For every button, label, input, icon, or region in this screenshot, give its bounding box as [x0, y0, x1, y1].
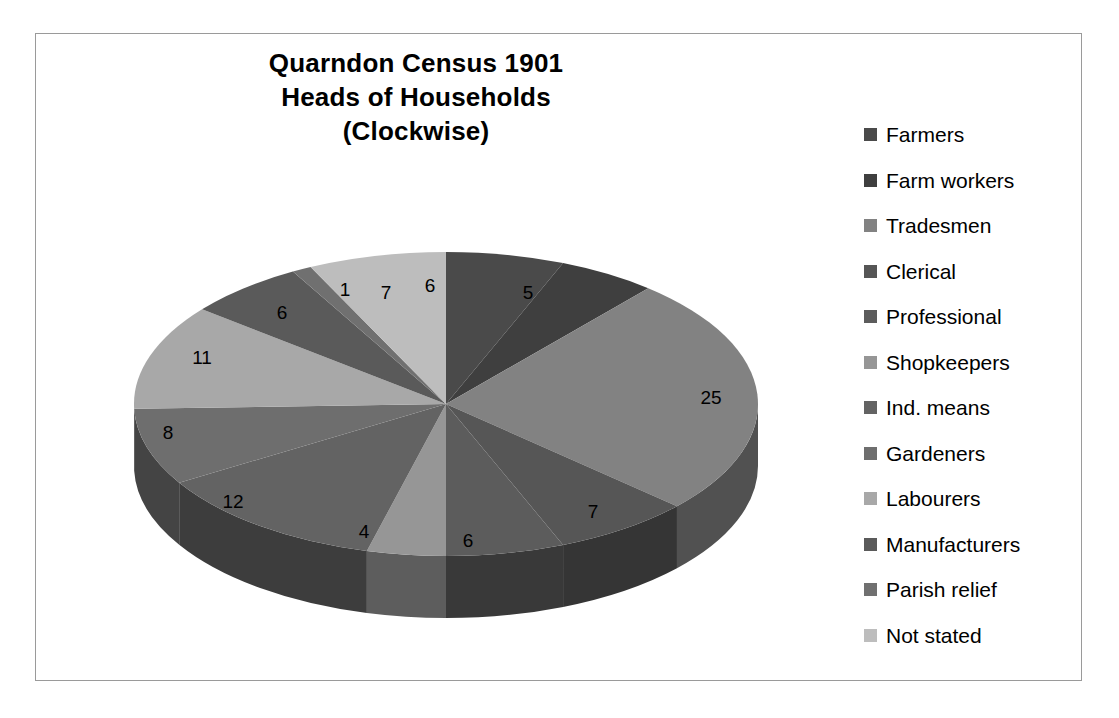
legend-item-manufacturers[interactable]: Manufacturers: [864, 522, 1079, 568]
pie-slice-side-shopkeepers: [367, 551, 446, 618]
legend-swatch-icon: [864, 629, 877, 642]
legend-item-label: Professional: [886, 306, 1002, 327]
legend-item-label: Not stated: [886, 625, 982, 646]
legend-item-label: Manufacturers: [886, 534, 1020, 555]
legend-swatch-icon: [864, 492, 877, 505]
legend-swatch-icon: [864, 310, 877, 323]
pie-svg: [96, 219, 796, 619]
legend-item-label: Shopkeepers: [886, 352, 1010, 373]
legend-item-farm-workers[interactable]: Farm workers: [864, 158, 1079, 204]
legend-item-clerical[interactable]: Clerical: [864, 249, 1079, 295]
pie-top-faces: [134, 252, 758, 556]
legend-item-parish-relief[interactable]: Parish relief: [864, 567, 1079, 613]
legend-item-label: Tradesmen: [886, 215, 991, 236]
legend-swatch-icon: [864, 128, 877, 141]
legend-item-label: Clerical: [886, 261, 956, 282]
legend-swatch-icon: [864, 174, 877, 187]
legend-item-label: Ind. means: [886, 397, 990, 418]
legend-swatch-icon: [864, 265, 877, 278]
chart-title-line-2: Heads of Households: [36, 81, 796, 115]
legend-swatch-icon: [864, 583, 877, 596]
pie-chart: 652576412811617: [96, 219, 796, 619]
legend-swatch-icon: [864, 219, 877, 232]
chart-title-line-3: (Clockwise): [36, 115, 796, 149]
legend-item-farmers[interactable]: Farmers: [864, 112, 1079, 158]
legend-item-professional[interactable]: Professional: [864, 294, 1079, 340]
legend-item-tradesmen[interactable]: Tradesmen: [864, 203, 1079, 249]
legend-item-not-stated[interactable]: Not stated: [864, 613, 1079, 659]
legend-item-shopkeepers[interactable]: Shopkeepers: [864, 340, 1079, 386]
legend-swatch-icon: [864, 538, 877, 551]
legend-item-labourers[interactable]: Labourers: [864, 476, 1079, 522]
legend-item-label: Gardeners: [886, 443, 985, 464]
legend-item-label: Labourers: [886, 488, 981, 509]
legend-item-gardeners[interactable]: Gardeners: [864, 431, 1079, 477]
legend-item-label: Farm workers: [886, 170, 1014, 191]
legend-swatch-icon: [864, 447, 877, 460]
chart-title-line-1: Quarndon Census 1901: [36, 47, 796, 81]
legend-item-label: Farmers: [886, 124, 964, 145]
legend-swatch-icon: [864, 356, 877, 369]
pie-slice-side-professional: [446, 545, 563, 618]
chart-legend: FarmersFarm workersTradesmenClericalProf…: [864, 112, 1079, 658]
chart-title: Quarndon Census 1901 Heads of Households…: [36, 47, 796, 148]
legend-item-label: Parish relief: [886, 579, 997, 600]
legend-swatch-icon: [864, 401, 877, 414]
legend-item-ind-means[interactable]: Ind. means: [864, 385, 1079, 431]
chart-frame: Quarndon Census 1901 Heads of Households…: [35, 33, 1082, 681]
